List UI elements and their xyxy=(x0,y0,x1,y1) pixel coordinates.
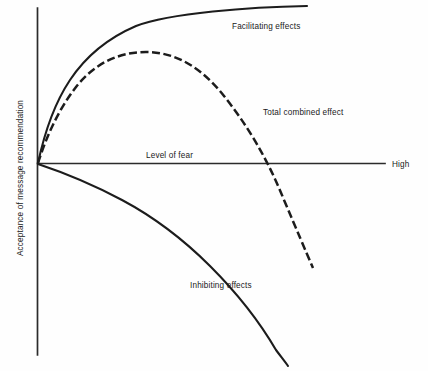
fear-appeal-diagram: Facilitating effects Total combined effe… xyxy=(0,0,428,371)
curve-inhibiting-effects xyxy=(38,164,288,366)
label-facilitating-effects: Facilitating effects xyxy=(232,22,300,31)
label-inhibiting-effects: Inhibiting effects xyxy=(190,281,252,290)
chart-canvas: Facilitating effects Total combined effe… xyxy=(0,0,428,371)
label-total-combined-effect: Total combined effect xyxy=(263,108,344,117)
label-x-axis-high: High xyxy=(392,160,410,169)
label-y-axis-title: Acceptance of message recommendation xyxy=(16,100,25,256)
label-level-of-fear: Level of fear xyxy=(146,151,193,160)
